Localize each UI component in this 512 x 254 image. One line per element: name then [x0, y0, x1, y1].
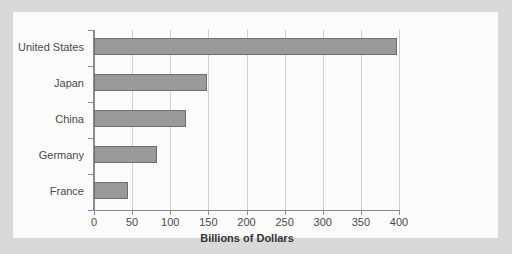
x-axis-tick-label: 400 — [374, 216, 424, 228]
chart-figure: 050100150200250300350400 United StatesJa… — [0, 0, 512, 254]
bar-row — [94, 66, 399, 102]
x-axis-tick — [208, 211, 209, 215]
bar-row — [94, 174, 399, 210]
bar-row — [94, 30, 399, 66]
bar-row — [94, 138, 399, 174]
x-axis-tick — [323, 211, 324, 215]
y-axis-tick — [88, 210, 93, 211]
y-axis-tick — [88, 66, 93, 67]
bar[interactable] — [94, 110, 186, 127]
x-axis-tick — [399, 211, 400, 215]
y-axis-tick — [88, 30, 93, 31]
bar-row — [94, 102, 399, 138]
bar[interactable] — [94, 182, 128, 199]
y-axis-category-label: Germany — [0, 149, 84, 161]
x-axis-title: Billions of Dollars — [94, 232, 400, 244]
x-axis-tick — [285, 211, 286, 215]
y-axis-category-label: Japan — [0, 77, 84, 89]
y-axis-tick — [88, 174, 93, 175]
x-axis-tick — [361, 211, 362, 215]
y-axis-tick — [88, 102, 93, 103]
bar[interactable] — [94, 74, 207, 91]
x-axis-tick — [170, 211, 171, 215]
chart-panel: 050100150200250300350400 United StatesJa… — [13, 12, 498, 238]
x-axis-tick — [132, 211, 133, 215]
bar[interactable] — [94, 38, 397, 55]
x-axis-tick — [94, 211, 95, 215]
gridline-400 — [399, 30, 400, 210]
x-axis-tick — [247, 211, 248, 215]
y-axis-line — [93, 30, 94, 211]
plot-area — [94, 30, 399, 210]
bar[interactable] — [94, 146, 157, 163]
y-axis-tick — [88, 138, 93, 139]
y-axis-category-label: United States — [0, 41, 84, 53]
y-axis-category-label: China — [0, 113, 84, 125]
y-axis-category-label: France — [0, 185, 84, 197]
